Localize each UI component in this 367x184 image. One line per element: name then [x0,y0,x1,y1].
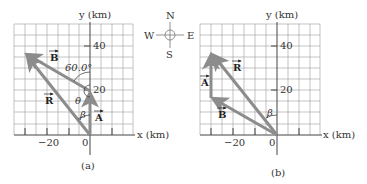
y-axis-label-a: y (km) [78,9,111,20]
arc-60-a [74,72,90,81]
vector-B-a [28,55,90,91]
x-tick-neg20-b: −20 [224,137,245,148]
label-B-b: B [218,109,226,120]
x-axis-label-a: x (km) [137,129,169,140]
x-tick-0-a: 0 [82,137,88,148]
compass: N S W E [144,10,194,60]
label-A-b: A [200,77,209,88]
theta-label: θ [75,95,81,106]
grid-a [14,24,133,135]
panel-b: y (km) x (km) 40 20 −20 0 R A B β (b) [200,9,355,178]
y-tick-20-a: 20 [93,84,106,95]
compass-east: E [187,30,194,41]
beta-label-a: β [79,109,86,120]
vector-addition-figure: y (km) x (km) 40 20 −20 0 B R A 60.0° θ … [0,0,367,184]
compass-north: N [166,10,175,21]
y-tick-20-b: 20 [280,84,293,95]
angle-60-label: 60.0° [65,62,92,73]
y-axis-label-b: y (km) [265,9,298,20]
x-tick-neg20-a: −20 [38,137,59,148]
beta-label-b: β [266,107,273,118]
y-tick-40-b: 40 [280,40,293,51]
label-R-b: R [233,62,242,73]
x-axis-label-b: x (km) [323,129,355,140]
caption-b: (b) [271,167,285,178]
caption-a: (a) [81,160,95,171]
x-tick-0-b: 0 [269,137,275,148]
label-R-a: R [45,95,54,106]
y-tick-40-a: 40 [93,40,106,51]
label-A-a: A [94,112,103,123]
compass-west: W [144,30,155,41]
label-B-a: B [50,52,58,63]
compass-south: S [166,49,173,60]
